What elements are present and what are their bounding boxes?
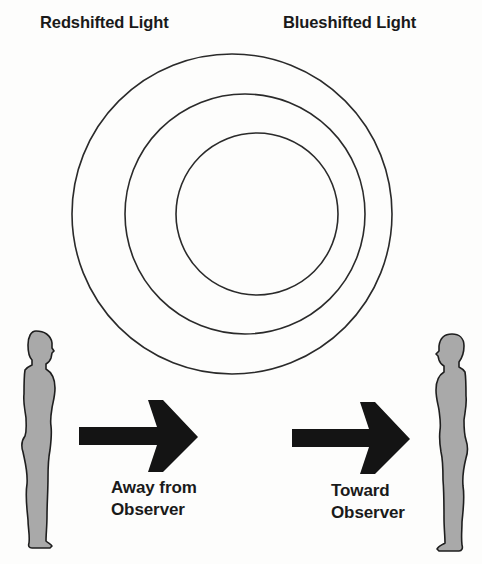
observer-figure-right-icon bbox=[436, 334, 468, 551]
arrow-away-icon bbox=[79, 400, 198, 472]
away-caption: Away from Observer bbox=[111, 477, 197, 521]
doppler-diagram bbox=[0, 0, 482, 564]
arrow-toward-icon bbox=[292, 402, 410, 474]
toward-caption-line2: Observer bbox=[331, 502, 405, 524]
away-caption-line1: Away from bbox=[111, 477, 197, 499]
toward-caption: Toward Observer bbox=[331, 480, 405, 524]
observer-figure-left-icon bbox=[22, 331, 55, 548]
wavefront-circles bbox=[72, 54, 392, 374]
outer-wavefront bbox=[72, 54, 392, 374]
inner-wavefront bbox=[176, 133, 338, 295]
toward-caption-line1: Toward bbox=[331, 480, 405, 502]
away-caption-line2: Observer bbox=[111, 499, 197, 521]
middle-wavefront bbox=[125, 94, 365, 334]
